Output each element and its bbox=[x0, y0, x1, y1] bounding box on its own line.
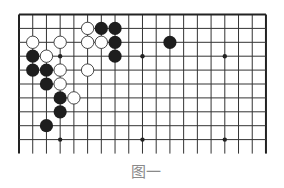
star-point bbox=[58, 137, 62, 141]
white-stone bbox=[81, 22, 93, 34]
white-stone bbox=[40, 50, 52, 62]
go-board bbox=[0, 0, 284, 188]
white-stone bbox=[81, 64, 93, 76]
white-stone bbox=[95, 36, 107, 48]
black-stone bbox=[95, 22, 108, 35]
black-stone bbox=[26, 64, 39, 77]
black-stone bbox=[108, 36, 121, 49]
white-stone bbox=[27, 36, 39, 48]
white-stone bbox=[54, 78, 66, 90]
black-stone bbox=[54, 91, 67, 104]
star-point bbox=[140, 137, 144, 141]
star-point bbox=[223, 137, 227, 141]
black-stone bbox=[26, 50, 39, 63]
black-stone bbox=[163, 36, 176, 49]
white-stone bbox=[81, 36, 93, 48]
star-point bbox=[223, 54, 227, 58]
black-stone bbox=[108, 22, 121, 35]
black-stone bbox=[40, 119, 53, 132]
white-stone bbox=[54, 64, 66, 76]
figure-caption: 图一 bbox=[131, 164, 161, 180]
white-stone bbox=[54, 36, 66, 48]
black-stone bbox=[54, 105, 67, 118]
black-stone bbox=[40, 77, 53, 90]
black-stone bbox=[108, 50, 121, 63]
white-stone bbox=[68, 92, 80, 104]
star-point bbox=[140, 54, 144, 58]
black-stone bbox=[40, 64, 53, 77]
star-point bbox=[58, 54, 62, 58]
